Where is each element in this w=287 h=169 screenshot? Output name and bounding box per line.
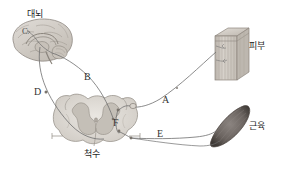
label-pathway-a: A <box>162 95 169 105</box>
label-skin: 피부 <box>249 42 265 51</box>
diagram-canvas: 대뇌 피부 근육 척수 A B C D E F <box>0 0 287 169</box>
label-pathway-b: B <box>84 72 91 82</box>
label-pathway-f: F <box>113 118 119 128</box>
label-pathway-e: E <box>157 129 163 139</box>
muscle-art <box>210 106 249 147</box>
label-cerebrum: 대뇌 <box>27 10 43 19</box>
spinal-cord-art <box>52 94 140 146</box>
label-pathway-c: C <box>22 27 28 36</box>
reflex-pathway-illustration <box>0 0 287 169</box>
label-muscle: 근육 <box>249 122 265 131</box>
skin-art <box>215 28 249 80</box>
label-spinal-cord: 척수 <box>84 150 100 159</box>
nerve-pathway-e <box>120 131 219 146</box>
label-pathway-d: D <box>34 87 41 97</box>
